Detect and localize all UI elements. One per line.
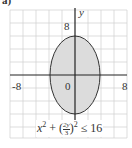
inequality-label: x2 + (2y3)2 ≤ 16 [36,120,103,137]
frac-num: 2y [63,122,70,129]
inequality-rhs: ≤ 16 [81,121,103,135]
x-tick-neg8: -8 [12,80,21,92]
y-axis-label: y [79,6,84,18]
y-tick-8: 8 [64,20,70,32]
part-label: a) [2,0,11,6]
x-tick-8: 8 [122,80,128,92]
frac-den: 3 [63,129,70,137]
origin-label: 0 [65,80,71,92]
